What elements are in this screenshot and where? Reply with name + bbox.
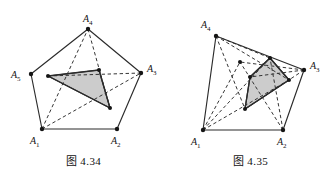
vertex-label-a1: A1 [29, 135, 40, 149]
vertex-label-a2: A2 [276, 136, 287, 150]
figure-4-35-drawing: A1 A2 A3 A4 [167, 0, 334, 160]
inner-dot-left [46, 74, 50, 78]
figure-caption-4-35: 图 4.35 [167, 152, 334, 168]
inner-dot-top [97, 68, 101, 72]
vertex-dot-a2 [115, 127, 119, 131]
figure-caption-4-34: 图 4.34 [0, 152, 167, 168]
vertex-dot-a1 [40, 127, 44, 131]
figure-pair-container: A1 A2 A3 A4 A5 图 4.34 [0, 0, 334, 186]
figure-panel-4-34: A1 A2 A3 A4 A5 图 4.34 [0, 0, 167, 186]
vertex-label-a5: A5 [10, 69, 21, 83]
vertex-dot-a3 [139, 71, 143, 75]
vertex-dot-a4 [86, 27, 90, 31]
diagonal-a1-p1 [203, 62, 240, 130]
vertex-label-a3: A3 [309, 60, 320, 74]
vertex-label-a3: A3 [146, 63, 157, 77]
vertex-label-a1: A1 [190, 136, 201, 150]
inner-dot-bottom [108, 106, 112, 110]
vertex-dot-a5 [29, 72, 33, 76]
vertex-dot-a2 [281, 128, 285, 132]
inner-dot-p5 [243, 107, 247, 111]
vertex-dot-a4 [214, 34, 218, 38]
vertex-label-a4: A4 [82, 13, 93, 27]
inner-dot-p3 [268, 56, 272, 60]
figure-panel-4-35: A1 A2 A3 A4 图 4.35 [167, 0, 334, 186]
vertex-label-a4: A4 [200, 19, 211, 33]
vertex-dot-a3 [302, 68, 306, 72]
inner-dot-p4 [287, 78, 291, 82]
inner-dot-p2 [248, 75, 252, 79]
vertex-label-a2: A2 [110, 135, 121, 149]
figure-4-34-drawing: A1 A2 A3 A4 A5 [0, 0, 167, 160]
vertex-dot-a1 [201, 128, 205, 132]
inner-dot-p1 [238, 60, 242, 64]
